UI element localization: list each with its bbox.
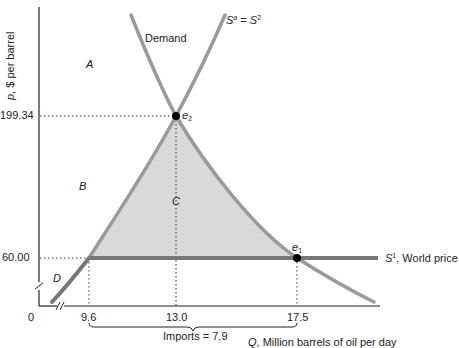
supply-label-equals: = <box>237 14 250 26</box>
x-tick-13-0: 13.0 <box>166 312 187 323</box>
e1-sub: 1 <box>298 247 302 254</box>
y-tick-199: 199.34 <box>0 110 34 121</box>
y-tick-60: 60.00 <box>2 252 30 263</box>
equilibrium-point-e2 <box>172 112 180 120</box>
x-axis-label: Q, Million barrels of oil per day <box>248 337 397 348</box>
supply-label-sup-2: 2 <box>257 14 261 21</box>
e1-label: e1 <box>292 242 302 254</box>
area-a-label: A <box>86 59 93 70</box>
y-axis-label: p, $ per barrel <box>4 32 16 101</box>
e2-sub: 2 <box>188 115 192 122</box>
x-tick-17-5: 17.5 <box>287 312 308 323</box>
y-axis-unit: , $ per barrel <box>4 32 16 94</box>
x-tick-9-6: 9.6 <box>81 312 96 323</box>
e2-label: e2 <box>182 110 192 122</box>
origin-label: 0 <box>28 312 34 323</box>
area-c-label: C <box>172 196 180 207</box>
equilibrium-point-e1 <box>293 254 301 262</box>
supply-label: Sa = S2 <box>226 14 261 26</box>
area-b-label: B <box>79 181 86 192</box>
x-axis-variable: Q <box>248 336 257 348</box>
demand-label: Demand <box>145 33 187 44</box>
area-d-label: D <box>53 273 61 284</box>
x-axis-unit: , Million barrels of oil per day <box>257 336 397 348</box>
y-axis-variable: p <box>4 94 16 100</box>
world-price-text: , World price <box>396 252 458 264</box>
imports-label: Imports = 7.9 <box>163 331 228 342</box>
world-price-label: S1, World price <box>385 252 458 264</box>
shaded-area-c <box>89 116 297 258</box>
